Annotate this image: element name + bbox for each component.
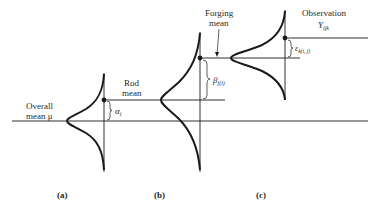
forging-mean-label-line2: mean bbox=[209, 18, 229, 28]
panel-b-normal-curve bbox=[161, 33, 200, 170]
panel-b-caption: (b) bbox=[154, 190, 165, 200]
epsilon-brace bbox=[288, 40, 293, 57]
panel-c-caption: (c) bbox=[256, 190, 266, 200]
epsilon-label: εk(i, j) bbox=[295, 44, 310, 55]
alpha-label: αi bbox=[115, 106, 122, 117]
beta-brace bbox=[203, 60, 210, 99]
forging-mean-pointer bbox=[217, 29, 219, 55]
arrowhead-icon bbox=[215, 52, 219, 57]
panel-a-caption: (a) bbox=[57, 190, 68, 200]
beta-label: βj(i) bbox=[212, 75, 225, 87]
observation-label-line1: Observation bbox=[302, 8, 346, 18]
rod-mean-label-line1: Rod bbox=[124, 78, 140, 88]
rod-mean-label-line2: mean bbox=[122, 88, 142, 98]
overall-mean-label-line1: Overall bbox=[26, 101, 53, 111]
panel-a: αi Overall mean μ Rod mean (a) bbox=[26, 73, 225, 200]
nested-model-diagram: αi Overall mean μ Rod mean (a) βj(i) For… bbox=[0, 0, 373, 209]
alpha-brace bbox=[107, 101, 112, 120]
observation-label-line2: Yijk bbox=[318, 20, 329, 31]
forging-mean-label-line1: Forging bbox=[205, 8, 234, 18]
panel-c-normal-curve bbox=[231, 11, 285, 100]
panel-c: εk(i, j) Observation Yijk (c) bbox=[231, 8, 368, 200]
panel-a-normal-curve bbox=[67, 74, 104, 170]
panel-b: βj(i) Forging mean (b) bbox=[154, 8, 300, 200]
overall-mean-label-line2: mean μ bbox=[26, 111, 53, 121]
